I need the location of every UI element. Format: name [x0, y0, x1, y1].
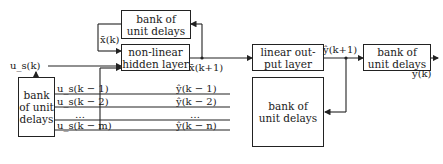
label-y-k-minus-1: ŷ(k − 1)	[176, 83, 217, 94]
bank-of-unit-delays-left: bankof unitdelays	[18, 77, 55, 137]
label-state-x-k: x̄(k)	[100, 34, 120, 45]
label-output-y-k: ŷ(k)	[412, 68, 432, 79]
label-state-x-k-plus-1: x̄(k+1)	[189, 62, 223, 73]
label-y-k-minus-2: ŷ(k − 2)	[176, 96, 217, 107]
connection-lines	[0, 0, 443, 164]
linear-output-layer: linear out-put layer	[252, 44, 324, 71]
bank-of-unit-delays-right: bank ofunit delays	[363, 44, 431, 71]
bank-of-unit-delays-bottom: bank ofunit delays	[252, 77, 324, 147]
label-us-ellipsis: …	[75, 109, 85, 120]
label-y-ellipsis: …	[190, 109, 200, 120]
label-us-k-minus-1: u_s(k − 1)	[57, 83, 109, 94]
non-linear-hidden-layer: non-linearhidden layer	[121, 44, 190, 71]
bank-of-unit-delays-top: bank ofunit delays	[121, 10, 191, 39]
label-y-k-minus-n: ŷ(k − n)	[176, 120, 217, 131]
label-us-k-minus-2: u_s(k − 2)	[57, 96, 109, 107]
label-input-us-k: u_s(k)	[10, 60, 40, 71]
label-output-y-k-plus-1: ŷ(k+1)	[323, 44, 357, 55]
label-us-k-minus-m: u_s(k − m)	[57, 120, 112, 131]
